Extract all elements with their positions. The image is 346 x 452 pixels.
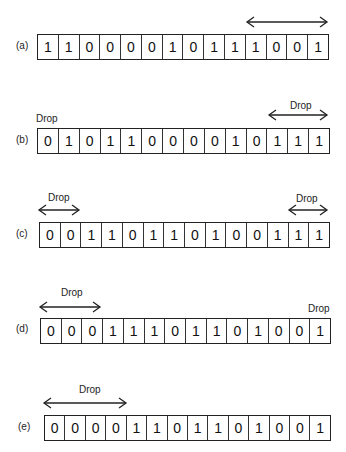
drop-label-right: Drop [308,303,330,314]
row-label: (b) [16,134,28,145]
bit-cell: 0 [184,129,205,153]
bit-cell: 1 [226,129,247,153]
bit-cell: 1 [248,319,269,343]
bit-cell: 1 [225,35,246,59]
bit-cell: 0 [82,319,103,343]
bit-cell: 1 [267,129,288,153]
bit-cell: 1 [145,319,166,343]
bit-cell: 1 [310,319,330,343]
bit-cell: 1 [127,416,147,440]
bit-cell: 0 [40,223,61,247]
bit-cell: 0 [290,319,311,343]
bit-cell: 0 [229,416,249,440]
bit-array: 0 0 0 1 1 1 0 1 1 0 1 0 0 1 [40,318,331,344]
bit-cell: 1 [249,416,269,440]
bit-cell: 1 [207,319,228,343]
bit-cell: 1 [309,223,329,247]
bit-cell: 0 [168,416,188,440]
bit-cell: 1 [309,129,329,153]
bit-cell: 0 [227,319,248,343]
double-arrow-icon [42,397,130,409]
drop-label-left: Drop [48,192,70,203]
bit-cell: 1 [288,129,309,153]
bit-cell: 1 [308,35,328,59]
bit-cell: 0 [45,416,65,440]
double-arrow-icon [37,204,83,216]
double-arrow-icon [38,301,104,313]
bit-cell: 1 [310,416,329,440]
bit-cell: 0 [106,416,126,440]
bit-cell: 0 [100,35,121,59]
bit-cell: 1 [124,319,145,343]
bit-cell: 1 [102,223,123,247]
bit-cell: 0 [185,223,206,247]
bit-cell: 1 [164,223,185,247]
bit-cell: 0 [61,223,82,247]
bit-cell: 1 [59,129,80,153]
bit-cell: 0 [247,129,268,153]
bit-cell: 1 [208,416,228,440]
bit-cell: 0 [80,35,101,59]
bit-cell: 1 [186,319,207,343]
bit-cell: 1 [38,35,59,59]
bit-cell: 1 [103,319,124,343]
bit-cell: 0 [267,35,288,59]
bit-cell: 0 [287,35,308,59]
row-label: (c) [16,228,28,239]
bit-cell: 0 [226,223,247,247]
bit-cell: 1 [188,416,208,440]
bit-cell: 1 [289,223,310,247]
bit-array: 0 0 1 1 0 1 1 0 1 0 0 1 1 1 [39,222,330,248]
bit-cell: 1 [121,129,142,153]
bit-array: 0 1 0 1 1 0 0 0 0 1 0 1 1 1 [37,128,330,154]
drop-label-left: Drop [61,287,83,298]
bit-cell: 0 [165,319,186,343]
double-arrow-icon [267,109,331,121]
bit-cell: 0 [142,129,163,153]
bit-cell: 1 [163,35,184,59]
bit-cell: 0 [142,35,163,59]
drop-label-left: Drop [36,113,58,124]
drop-label-left: Drop [79,384,101,395]
bit-cell: 0 [38,129,59,153]
drop-label-right: Drop [296,193,318,204]
bit-cell: 1 [206,223,227,247]
bit-cell: 1 [101,129,122,153]
bit-cell: 0 [80,129,101,153]
row-label: (a) [16,40,28,51]
bit-cell: 0 [247,223,268,247]
double-arrow-icon [245,16,331,28]
double-arrow-icon [287,204,331,216]
bit-cell: 0 [41,319,62,343]
bit-cell: 0 [65,416,85,440]
bit-cell: 1 [204,35,225,59]
bit-cell: 1 [147,416,167,440]
bit-array: 0 0 0 0 1 1 0 1 1 0 1 0 0 1 [44,415,331,441]
bit-cell: 0 [62,319,83,343]
bit-cell: 1 [59,35,80,59]
bit-cell: 0 [290,416,310,440]
bit-cell: 0 [183,35,204,59]
bit-cell: 0 [269,319,290,343]
bit-cell: 0 [270,416,290,440]
bit-cell: 0 [123,223,144,247]
bit-array: 1 1 0 0 0 0 1 0 1 1 1 0 0 1 [37,34,329,60]
bit-cell: 1 [268,223,289,247]
bit-cell: 1 [144,223,165,247]
bit-cell: 1 [81,223,102,247]
bit-cell: 1 [246,35,267,59]
bit-cell: 0 [205,129,226,153]
row-label: (e) [18,421,30,432]
row-label: (d) [16,323,28,334]
bit-cell: 0 [163,129,184,153]
bit-cell: 0 [121,35,142,59]
bit-cell: 0 [86,416,106,440]
